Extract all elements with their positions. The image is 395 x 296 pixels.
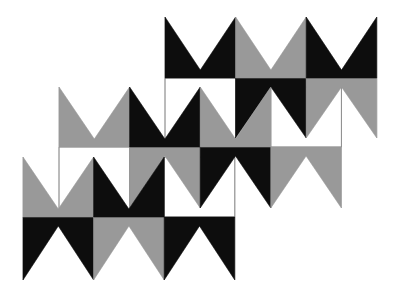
band-bottom-m-tile-gray [23, 157, 94, 217]
band-middle-m-tile-gray [59, 87, 130, 147]
tessellation-figure [0, 0, 395, 296]
band-middle-w-tile-gray [271, 147, 342, 208]
band-bottom-w-tile-gray [94, 217, 165, 280]
band-bottom-w-tile-black [23, 217, 94, 280]
band-middle-w-tile-black [200, 147, 271, 208]
band-top-m-tile-black [306, 17, 377, 78]
band-top-m-tile-black [165, 17, 236, 78]
band-top-m-tile-gray [236, 17, 307, 78]
band-bottom-w-tile-black [164, 217, 235, 280]
